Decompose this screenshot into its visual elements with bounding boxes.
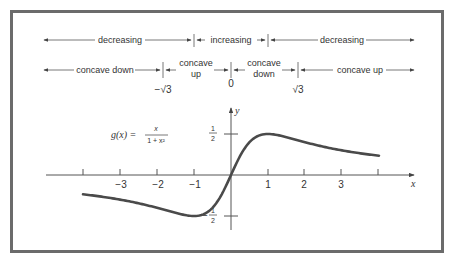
function-lhs: g(x) = (111, 129, 136, 141)
concave-down-label-line2: down (253, 69, 275, 79)
x-tick-minus1: −1 (189, 179, 201, 190)
marker-minus-sqrt3: −√3 (155, 84, 172, 95)
function-denominator: 1 + x² (147, 137, 165, 144)
concave-down-label-left: concave down (76, 65, 134, 75)
x-tick-1: 1 (265, 179, 271, 190)
svg-text:2: 2 (211, 217, 215, 224)
function-numerator: x (153, 125, 158, 132)
x-axis-label: x (410, 178, 416, 189)
svg-text:1: 1 (211, 125, 215, 132)
x-tick-minus3: −3 (115, 179, 127, 190)
concave-up-label-right: concave up (337, 65, 383, 75)
decreasing-label-right: decreasing (320, 35, 364, 45)
function-label: g(x) = x 1 + x² (111, 125, 168, 144)
svg-text:2: 2 (211, 135, 215, 142)
decreasing-label-left: decreasing (98, 35, 142, 45)
x-tick-minus2: −2 (152, 179, 164, 190)
axes: x y −3 −2 −1 1 2 3 1 2 − 1 2 (46, 105, 416, 230)
concave-up-label-line2: up (191, 69, 201, 79)
monotonicity-row: decreasing increasing decreasing (44, 34, 414, 47)
marker-sqrt3: √3 (292, 84, 303, 95)
y-tick-half: 1 2 (209, 125, 217, 142)
x-tick-2: 2 (301, 179, 307, 190)
function-diagram: decreasing increasing decreasing concave… (0, 0, 450, 260)
increasing-label: increasing (210, 35, 251, 45)
marker-zero: 0 (228, 78, 234, 89)
concavity-row: concave down −√3 concave up 0 concave do… (44, 58, 414, 95)
concave-up-label-line1: concave (179, 58, 213, 68)
concave-down-label-line1: concave (247, 58, 281, 68)
y-axis-label: y (234, 105, 240, 116)
x-tick-3: 3 (338, 179, 344, 190)
